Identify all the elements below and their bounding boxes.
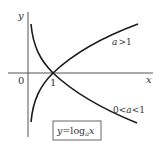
label-a-greater-1: a>1 [112, 37, 132, 47]
label-a-between-0-1: 0<a<1 [113, 105, 145, 115]
origin-label: 0 [18, 75, 24, 86]
log-function-diagram: y x 0 1 a>1 0<a<1 y=logax [0, 0, 163, 155]
x-axis-label: x [146, 74, 152, 85]
y-axis-label: y [17, 10, 24, 21]
tick-label-1: 1 [50, 77, 56, 88]
